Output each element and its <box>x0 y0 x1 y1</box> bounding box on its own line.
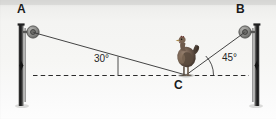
hen-beak <box>176 40 179 42</box>
hen-comb <box>180 36 184 38</box>
pulley-ring-icon-right <box>239 26 251 38</box>
post-left-cap <box>18 23 25 25</box>
angle-right-arc <box>206 56 214 75</box>
hen-eye <box>181 39 183 41</box>
point-label-c: C <box>174 79 183 91</box>
post-right-rail <box>252 28 254 102</box>
point-label-a: A <box>17 3 26 15</box>
pulley-ring-icon-left <box>27 26 39 38</box>
scan-shadow-band <box>0 0 276 5</box>
post-left-rail <box>24 28 26 102</box>
ring-left-hub <box>31 30 36 35</box>
point-label-b: B <box>236 3 245 15</box>
sight-line-ca <box>34 33 187 76</box>
hen-leg-back <box>183 67 185 76</box>
hen-breast-highlight <box>178 53 185 63</box>
hen-head <box>179 37 186 43</box>
angle-label-left: 30° <box>94 54 109 64</box>
hen-leg-front <box>187 67 189 76</box>
post-right-cap <box>253 23 260 25</box>
angle-label-right: 45° <box>222 53 237 63</box>
figure-canvas: A B C 30° 45° <box>0 0 276 119</box>
hen-icon <box>175 36 199 78</box>
